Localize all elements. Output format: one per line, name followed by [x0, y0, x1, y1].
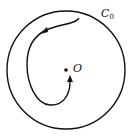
spiral-path [27, 18, 79, 105]
origin-point [64, 68, 68, 72]
center-label: O [73, 62, 82, 75]
arrowhead-lower-icon [67, 75, 73, 82]
contour-diagram: O C0 [0, 0, 131, 137]
boundary-label: C0 [101, 7, 114, 21]
boundary-subscript: 0 [109, 13, 113, 21]
arrowhead-upper-icon [40, 27, 48, 34]
